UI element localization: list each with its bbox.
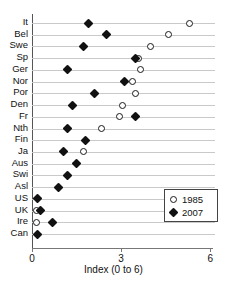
category-label: Aus	[12, 157, 28, 168]
x-axis-title: Index (0 to 6)	[0, 264, 227, 275]
category-label: It	[23, 16, 28, 27]
data-point-2007	[79, 41, 89, 51]
data-point-1985	[186, 20, 193, 27]
legend-item-2007: 2007	[170, 206, 218, 219]
data-point-1985	[33, 219, 40, 226]
dot-plot-chart: ItBelSweSpGerNorPorDenFrNthFinJaAusSwiAs…	[0, 0, 227, 287]
legend-item-1985: 1985	[170, 193, 218, 206]
legend-label-2007: 2007	[182, 206, 203, 219]
category-label: US	[15, 192, 28, 203]
gridline	[32, 222, 215, 223]
legend-label-1985: 1985	[182, 193, 203, 206]
data-point-2007	[101, 30, 111, 40]
data-point-1985	[147, 43, 154, 50]
data-point-2007	[83, 18, 93, 28]
y-axis-line	[32, 14, 33, 248]
category-label: Por	[13, 86, 28, 97]
data-point-2007	[58, 147, 68, 157]
gridline	[32, 35, 215, 36]
category-label: Asl	[15, 180, 28, 191]
open-circle-icon	[170, 196, 177, 203]
data-point-2007	[119, 77, 129, 87]
data-point-1985	[116, 113, 123, 120]
data-point-1985	[129, 78, 136, 85]
data-point-2007	[89, 88, 99, 98]
category-label: Den	[11, 98, 28, 109]
chart-legend: 1985 2007	[164, 189, 218, 222]
gridline	[32, 175, 215, 176]
x-tick	[121, 248, 122, 252]
gridline	[32, 117, 215, 118]
category-label: Fin	[15, 133, 28, 144]
data-point-2007	[33, 229, 43, 239]
filled-diamond-icon	[169, 208, 179, 218]
data-point-2007	[72, 159, 82, 169]
data-point-2007	[67, 100, 77, 110]
x-tick	[210, 248, 211, 252]
category-label: Bel	[14, 28, 28, 39]
gridline	[32, 93, 215, 94]
category-label: Can	[11, 227, 28, 238]
gridline	[32, 129, 215, 130]
x-tick	[32, 248, 33, 252]
gridline	[32, 70, 215, 71]
data-point-1985	[132, 90, 139, 97]
data-point-2007	[54, 182, 64, 192]
gridline	[32, 46, 215, 47]
data-point-1985	[80, 148, 87, 155]
data-point-2007	[63, 65, 73, 75]
gridline	[32, 234, 215, 235]
category-label: Ire	[17, 215, 28, 226]
data-point-2007	[36, 206, 46, 216]
data-point-2007	[33, 194, 43, 204]
data-point-1985	[137, 66, 144, 73]
category-label: Sp	[16, 51, 28, 62]
data-point-2007	[63, 170, 73, 180]
data-point-2007	[81, 135, 91, 145]
category-label: Swi	[13, 168, 28, 179]
category-label: Nth	[13, 122, 28, 133]
data-point-2007	[48, 217, 58, 227]
x-axis-line	[32, 248, 213, 249]
data-point-1985	[119, 102, 126, 109]
category-label: Ger	[12, 63, 28, 74]
data-point-1985	[165, 31, 172, 38]
data-point-2007	[131, 112, 141, 122]
category-label: UK	[15, 204, 28, 215]
gridline	[32, 164, 215, 165]
category-label: Swe	[10, 39, 28, 50]
category-label: Nor	[13, 75, 28, 86]
data-point-2007	[63, 124, 73, 134]
gridline	[32, 140, 215, 141]
category-label: Ja	[18, 145, 28, 156]
gridline	[32, 58, 215, 59]
category-label: Fr	[19, 110, 28, 121]
data-point-1985	[98, 125, 105, 132]
